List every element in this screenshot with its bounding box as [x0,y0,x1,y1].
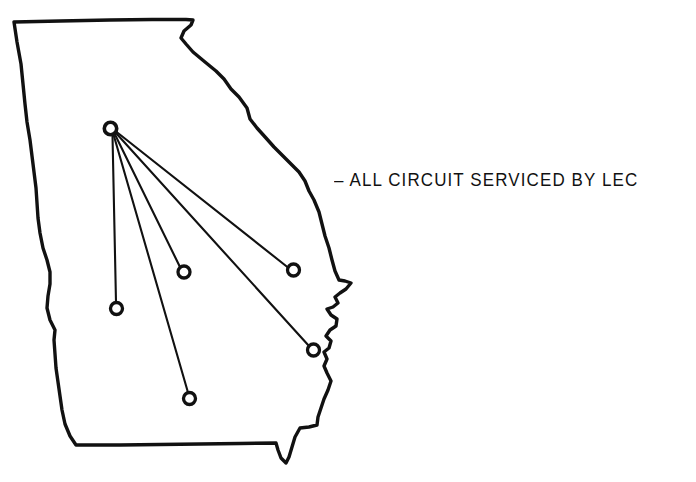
route-hub-to-west [113,135,117,302]
node-west[interactable] [111,303,123,315]
map-canvas [0,0,696,482]
route-hub-to-east [116,132,288,268]
circuit-map-figure: – ALL CIRCUIT SERVICED BY LEC [0,0,696,482]
node-south[interactable] [184,393,196,405]
route-lines-group [113,132,310,393]
route-hub-to-central [115,134,181,268]
route-hub-to-south [114,135,189,393]
map-annotation-label: – ALL CIRCUIT SERVICED BY LEC [334,170,638,191]
node-east[interactable] [288,264,300,276]
node-markers-group [104,122,319,404]
hub-node[interactable] [104,122,116,134]
node-southeast[interactable] [308,344,320,356]
node-central[interactable] [178,266,190,278]
